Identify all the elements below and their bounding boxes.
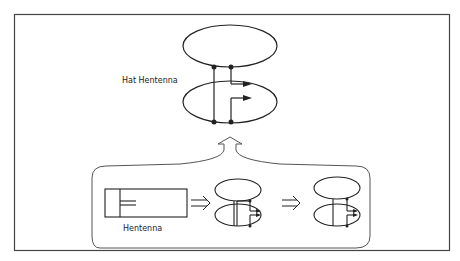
intermediate-figure <box>215 179 261 228</box>
hentenna-figure <box>105 189 187 217</box>
double-arrow-right-icon <box>191 196 210 210</box>
diagram-canvas: Hat Hentenna Hentenna <box>0 0 460 261</box>
outer-frame <box>15 15 450 251</box>
hentenna-label: Hentenna <box>123 224 162 233</box>
hat-hentenna-label: Hat Hentenna <box>122 76 178 85</box>
hat-hentenna-figure <box>183 25 277 125</box>
double-arrow-right-icon <box>282 196 300 210</box>
top-hat-ellipse <box>183 25 277 67</box>
final-hat-hentenna-figure <box>314 177 360 228</box>
feed-arrow-icon <box>243 95 252 101</box>
bottom-loop-ellipse <box>183 81 277 123</box>
